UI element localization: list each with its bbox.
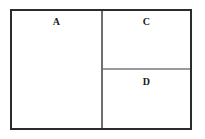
panel-d[interactable]: D xyxy=(103,70,190,128)
panel-a[interactable]: A xyxy=(12,11,101,128)
horizontal-divider xyxy=(103,68,190,70)
diagram-canvas: A C D xyxy=(0,0,205,139)
panel-a-label: A xyxy=(12,16,101,27)
panel-d-label: D xyxy=(103,76,190,87)
panel-c[interactable]: C xyxy=(103,11,190,68)
panel-c-label: C xyxy=(103,16,190,27)
